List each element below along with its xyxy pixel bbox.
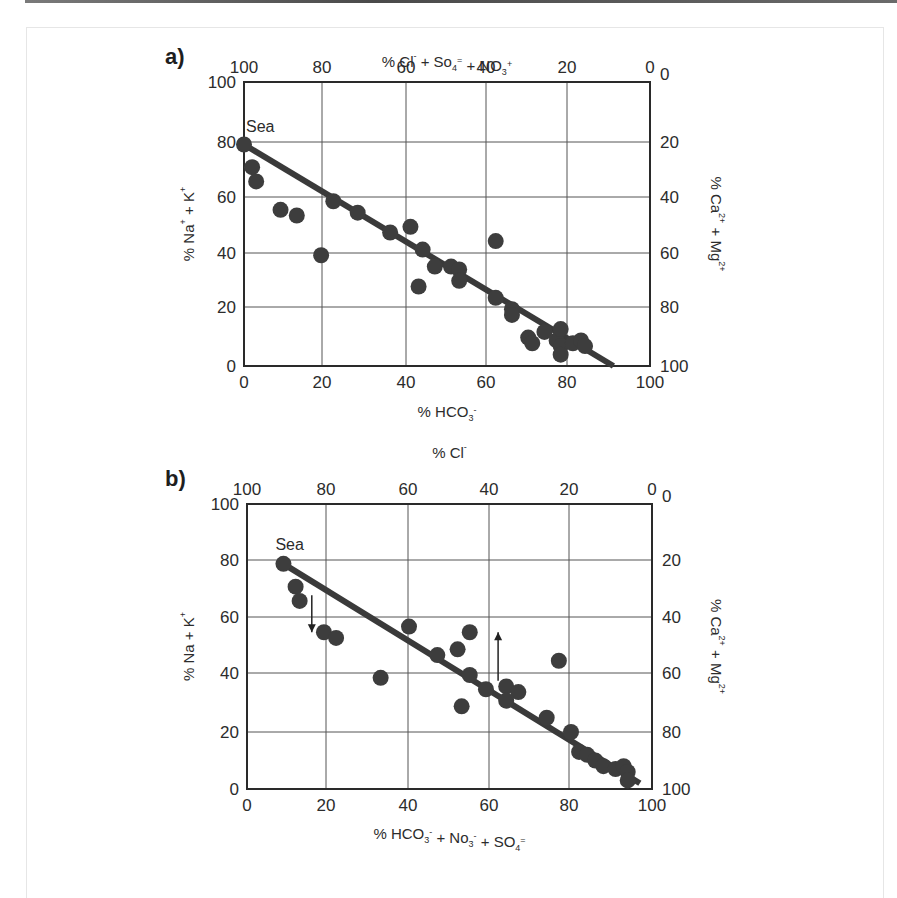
y-tick-label: 60 <box>217 188 236 207</box>
chart-b: b)02040608010010080604020002040608010002… <box>165 442 727 853</box>
right-tick-label: 80 <box>660 298 679 317</box>
y-tick-label: 60 <box>220 608 239 627</box>
plot-frame <box>247 504 652 789</box>
y-tick-label: 80 <box>217 133 236 152</box>
svg-text:% Cl-: % Cl- <box>432 442 467 461</box>
x-axis-title: % HCO3- <box>418 403 477 423</box>
data-point <box>462 667 478 683</box>
right-tick-label: 40 <box>660 188 679 207</box>
data-point <box>275 556 291 572</box>
data-point <box>427 259 443 275</box>
data-point <box>498 693 514 709</box>
data-point <box>273 202 289 218</box>
grid <box>247 504 652 789</box>
svg-text:% Ca2+ + Mg2+: % Ca2+ + Mg2+ <box>708 176 727 271</box>
chart-a: a)02040608010010080604020002040608010002… <box>165 44 727 423</box>
x-tick-label: 80 <box>560 796 579 815</box>
panel-label: b) <box>165 466 186 491</box>
data-point <box>429 647 445 663</box>
x-tick-label: 40 <box>397 373 416 392</box>
right-axis-title: % Ca2+ + Mg2+ <box>708 176 727 271</box>
sea-annotation: Sea <box>275 536 304 553</box>
top-tick-label: 80 <box>317 480 336 499</box>
data-point <box>488 290 504 306</box>
data-point <box>415 242 431 258</box>
right-tick-label: 40 <box>662 608 681 627</box>
data-point <box>620 772 636 788</box>
data-point <box>373 670 389 686</box>
y-axis-title: % Na+ + K+ <box>178 187 197 261</box>
data-point <box>401 619 417 635</box>
data-point <box>450 641 466 657</box>
data-point <box>350 205 366 221</box>
svg-text:% Na + K+: % Na + K+ <box>178 612 197 681</box>
data-point <box>289 207 305 223</box>
right-tick-label: 60 <box>662 664 681 683</box>
y-tick-label: 80 <box>220 551 239 570</box>
top-tick-label: 80 <box>313 58 332 77</box>
y-tick-label: 0 <box>227 357 236 376</box>
data-point <box>451 273 467 289</box>
data-point <box>248 173 264 189</box>
right-tick-label: 100 <box>660 357 688 376</box>
x-tick-label: 0 <box>242 796 251 815</box>
data-point <box>553 321 569 337</box>
right-tick-label: 0 <box>662 487 671 506</box>
data-point <box>551 653 567 669</box>
data-point <box>563 724 579 740</box>
data-point <box>577 338 593 354</box>
grid <box>244 82 650 366</box>
top-tick-label: 0 <box>647 480 656 499</box>
data-point <box>382 225 398 241</box>
svg-text:% Ca2+ + Mg2+: % Ca2+ + Mg2+ <box>708 599 727 694</box>
data-point <box>454 698 470 714</box>
svg-text:% HCO3- + No3- + SO4=: % HCO3- + No3- + SO4= <box>373 825 525 853</box>
top-tick-label: 60 <box>399 480 418 499</box>
data-point <box>462 624 478 640</box>
top-tick-label: 20 <box>558 58 577 77</box>
data-point <box>411 278 427 294</box>
x-tick-label: 40 <box>399 796 418 815</box>
x-tick-label: 20 <box>317 796 336 815</box>
x-tick-label: 0 <box>239 373 248 392</box>
right-tick-label: 20 <box>660 133 679 152</box>
x-tick-label: 60 <box>477 373 496 392</box>
top-axis-title: % Cl- <box>432 442 467 461</box>
arrow-down-icon <box>308 595 316 632</box>
right-tick-label: 0 <box>660 65 669 84</box>
top-tick-label: 40 <box>480 480 499 499</box>
plot-frame <box>244 82 650 366</box>
right-tick-label: 80 <box>662 723 681 742</box>
right-tick-label: 20 <box>662 551 681 570</box>
data-point <box>504 307 520 323</box>
data-point <box>402 219 418 235</box>
data-point <box>478 681 494 697</box>
data-point <box>313 247 329 263</box>
data-point <box>539 710 555 726</box>
panel-label: a) <box>165 44 185 69</box>
sea-annotation: Sea <box>246 118 275 135</box>
y-tick-label: 0 <box>230 780 239 799</box>
data-point <box>244 159 260 175</box>
x-tick-label: 60 <box>480 796 499 815</box>
y-tick-label: 100 <box>208 73 236 92</box>
right-axis-title: % Ca2+ + Mg2+ <box>708 599 727 694</box>
data-point <box>325 193 341 209</box>
y-axis-title: % Na + K+ <box>178 612 197 681</box>
data-point <box>553 347 569 363</box>
svg-text:% Na+ + K+: % Na+ + K+ <box>178 187 197 261</box>
right-tick-label: 60 <box>660 244 679 263</box>
x-tick-label: 20 <box>313 373 332 392</box>
y-tick-label: 20 <box>220 723 239 742</box>
data-point <box>288 579 304 595</box>
data-point <box>524 335 540 351</box>
data-point <box>236 136 252 152</box>
data-point <box>328 630 344 646</box>
top-tick-label: 0 <box>645 58 654 77</box>
top-tick-label: 20 <box>560 480 579 499</box>
y-tick-label: 40 <box>220 664 239 683</box>
svg-text:% HCO3-: % HCO3- <box>418 403 477 423</box>
data-point <box>292 593 308 609</box>
y-tick-label: 20 <box>217 298 236 317</box>
